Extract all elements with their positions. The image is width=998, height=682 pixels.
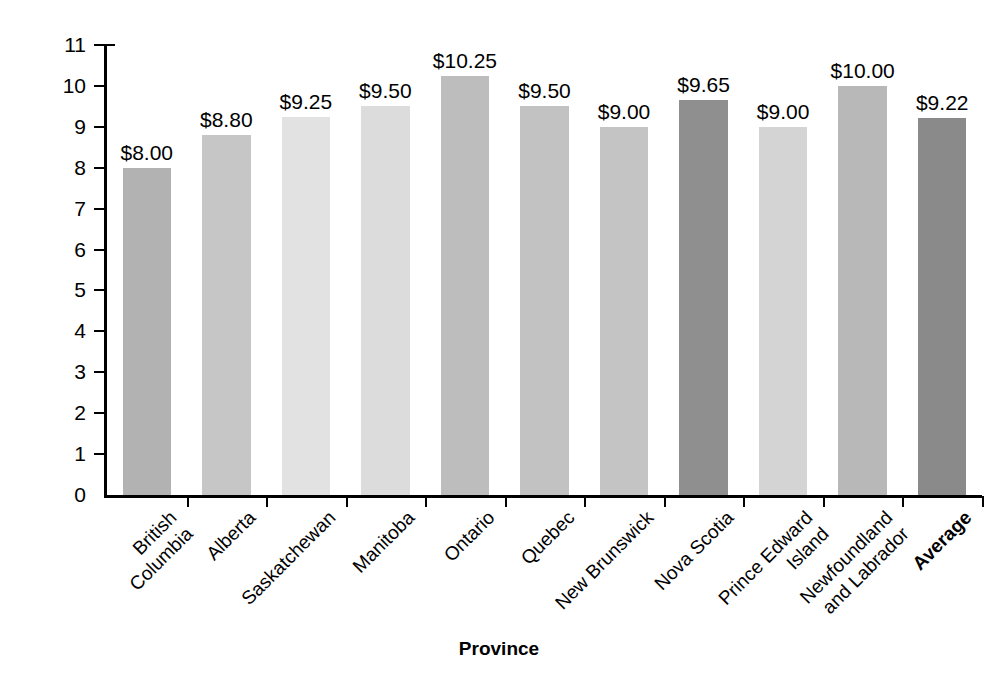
bar-value-label: $10.00 — [808, 60, 918, 81]
x-tick-mark — [823, 496, 825, 507]
x-tick-mark — [505, 496, 507, 507]
x-tick-mark — [425, 496, 427, 507]
bar-value-label: $8.00 — [92, 142, 202, 163]
bar-value-label: $9.65 — [649, 74, 759, 95]
x-tick-mark — [982, 496, 984, 507]
x-tick-mark — [902, 496, 904, 507]
bar — [282, 117, 331, 495]
bar-value-label: $9.50 — [490, 80, 600, 101]
bar — [361, 106, 410, 495]
bar-chart: Minimum Wage per Hour ($) 01234567891011… — [0, 0, 998, 682]
bar — [838, 86, 887, 495]
x-tick-mark — [346, 496, 348, 507]
x-axis-line — [104, 495, 982, 498]
bar — [202, 135, 251, 495]
x-tick-mark — [584, 496, 586, 507]
bar-value-label: $8.80 — [172, 109, 282, 130]
x-tick-mark — [187, 496, 189, 507]
bar-value-label: $10.25 — [410, 50, 520, 71]
bar — [441, 76, 490, 495]
bar-value-label: $9.50 — [331, 80, 441, 101]
bar-value-label: $9.00 — [728, 101, 838, 122]
bar — [520, 106, 569, 495]
bar-value-label: $9.00 — [569, 101, 679, 122]
bar-value-label: $9.22 — [887, 92, 997, 113]
x-tick-mark — [743, 496, 745, 507]
x-axis-title: Province — [0, 638, 998, 660]
bar — [679, 100, 728, 495]
x-tick-mark — [266, 496, 268, 507]
bar — [600, 127, 649, 495]
x-tick-mark — [664, 496, 666, 507]
bar — [918, 118, 967, 495]
bar — [123, 168, 172, 495]
bar — [759, 127, 808, 495]
